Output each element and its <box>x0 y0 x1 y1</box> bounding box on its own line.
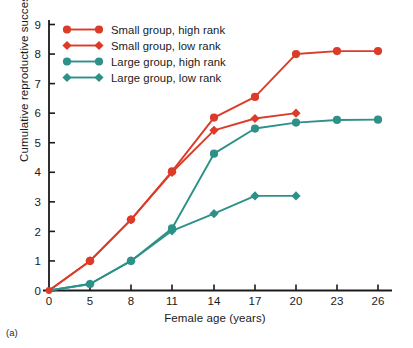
y-tick-label-3: 3 <box>35 196 41 208</box>
x-tick-label-0: 0 <box>46 295 52 307</box>
legend-label-3: Large group, low rank <box>106 72 221 84</box>
series-line-2 <box>49 120 378 291</box>
legend-label-1: Small group, low rank <box>106 40 221 52</box>
series-2 <box>49 116 382 291</box>
legend-marker-a-3 <box>62 73 71 82</box>
origin-marker <box>46 287 53 294</box>
data-point-3-4 <box>209 209 218 218</box>
panel-identifier: (a) <box>6 327 18 338</box>
legend-marker-a-2 <box>63 57 71 65</box>
x-tick-label-17: 17 <box>249 295 262 307</box>
series-line-3 <box>49 196 296 291</box>
legend-marker-b-2 <box>95 57 103 65</box>
data-point-1-5 <box>250 114 259 123</box>
x-axis-label: Female age (years) <box>40 312 390 324</box>
y-tick-label-0: 0 <box>35 285 41 297</box>
legend-item-3: Large group, low rank <box>60 70 226 85</box>
legend-marker-a-0 <box>63 25 71 33</box>
legend-swatch-circle-icon <box>60 54 106 69</box>
legend-swatch-circle-icon <box>60 22 106 37</box>
y-tick-label-9: 9 <box>35 19 41 31</box>
legend-marker-a-1 <box>62 41 71 50</box>
data-point-3-1 <box>85 279 94 288</box>
legend-item-0: Small group, high rank <box>60 22 226 37</box>
y-tick-label-1: 1 <box>35 255 41 267</box>
data-point-1-6 <box>291 109 300 118</box>
data-point-2-7 <box>333 116 341 124</box>
y-axis-label: Cumulative reproductive success <box>18 0 30 196</box>
series-1 <box>49 109 301 291</box>
x-tick-label-11: 11 <box>166 295 178 307</box>
data-point-0-4 <box>210 114 218 122</box>
y-tick-label-4: 4 <box>35 166 42 178</box>
legend-item-2: Large group, high rank <box>60 54 226 69</box>
legend-item-1: Small group, low rank <box>60 38 226 53</box>
data-point-2-8 <box>374 116 382 124</box>
data-point-2-4 <box>210 150 218 158</box>
legend-marker-b-3 <box>94 73 103 82</box>
data-point-3-5 <box>250 191 259 200</box>
legend-swatch-diamond-icon <box>60 70 106 85</box>
y-tick-label-2: 2 <box>35 226 41 238</box>
legend-swatch-diamond-icon <box>60 38 106 53</box>
x-tick-label-20: 20 <box>290 295 303 307</box>
y-tick-label-7: 7 <box>35 78 41 90</box>
legend-marker-b-0 <box>95 25 103 33</box>
series-line-0 <box>49 51 378 290</box>
data-point-0-8 <box>374 47 382 55</box>
x-tick-label-14: 14 <box>208 295 221 307</box>
data-point-0-6 <box>292 50 300 58</box>
y-tick-label-5: 5 <box>35 137 41 149</box>
x-tick-label-26: 26 <box>372 295 385 307</box>
data-point-2-5 <box>251 124 259 132</box>
legend-label-2: Large group, high rank <box>106 56 226 68</box>
x-tick-label-23: 23 <box>331 295 344 307</box>
y-tick-label-8: 8 <box>35 48 41 60</box>
series-3 <box>49 191 301 290</box>
series-line-1 <box>49 113 296 290</box>
chart-legend: Small group, high rankSmall group, low r… <box>60 22 226 85</box>
figure-panel-a: 0123456789058111417202326 Cumulative rep… <box>0 0 413 348</box>
data-point-0-5 <box>251 93 259 101</box>
legend-marker-b-1 <box>94 41 103 50</box>
x-tick-label-8: 8 <box>128 295 134 307</box>
data-point-3-6 <box>291 191 300 200</box>
y-tick-label-6: 6 <box>35 107 41 119</box>
data-point-2-6 <box>292 119 300 127</box>
data-point-0-7 <box>333 47 341 55</box>
x-tick-label-5: 5 <box>87 295 93 307</box>
legend-label-0: Small group, high rank <box>106 24 225 36</box>
